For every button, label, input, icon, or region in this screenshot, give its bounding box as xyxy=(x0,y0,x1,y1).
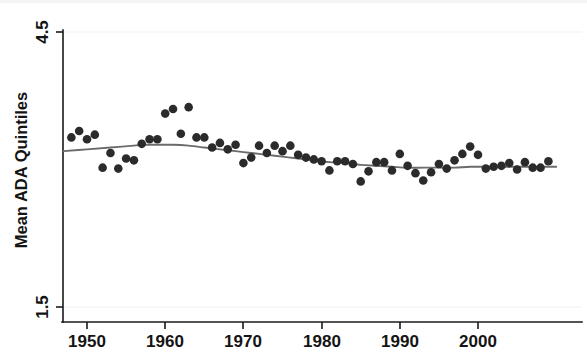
data-point xyxy=(419,176,428,185)
data-point xyxy=(317,157,326,166)
data-point xyxy=(356,177,365,186)
data-point xyxy=(98,163,107,172)
y-axis: 4.5 1.5 Mean ADA Quintiles xyxy=(12,20,63,322)
data-point xyxy=(184,103,193,112)
x-tick-label-1980: 1980 xyxy=(303,332,341,351)
data-point xyxy=(216,139,225,148)
data-point xyxy=(200,133,209,142)
data-point xyxy=(177,129,186,138)
data-point xyxy=(528,163,537,172)
data-point xyxy=(270,141,279,150)
scatter-plot-svg: 4.5 1.5 Mean ADA Quintiles 1950 1960 197… xyxy=(0,0,587,358)
data-point xyxy=(208,143,217,152)
data-point xyxy=(364,167,373,176)
data-point xyxy=(169,105,178,114)
data-point xyxy=(75,127,84,136)
y-tick-label-bottom: 1.5 xyxy=(33,295,52,319)
data-point xyxy=(489,162,498,171)
data-point xyxy=(388,166,397,175)
data-point xyxy=(106,149,115,158)
data-point xyxy=(145,135,154,144)
x-tick-label-2000: 2000 xyxy=(459,332,497,351)
y-tick-label-top: 4.5 xyxy=(33,20,52,44)
data-point xyxy=(497,162,506,171)
data-point xyxy=(83,135,92,144)
data-point xyxy=(286,141,295,150)
data-point xyxy=(380,158,389,167)
x-tick-label-1970: 1970 xyxy=(224,332,262,351)
data-point xyxy=(482,164,491,173)
gridlines xyxy=(63,32,582,307)
data-point xyxy=(372,158,381,167)
data-point xyxy=(349,160,358,169)
x-tick-label-1950: 1950 xyxy=(68,332,106,351)
data-point xyxy=(341,157,350,166)
data-point xyxy=(396,150,405,159)
data-point xyxy=(521,158,530,167)
page-scan-artifact xyxy=(0,0,587,3)
data-point xyxy=(474,151,483,160)
chart-figure: 4.5 1.5 Mean ADA Quintiles 1950 1960 197… xyxy=(0,0,587,358)
data-point xyxy=(91,130,100,139)
data-point xyxy=(442,164,451,173)
data-point xyxy=(255,141,264,150)
data-point xyxy=(278,147,287,156)
data-point xyxy=(450,156,459,165)
data-point xyxy=(67,133,76,142)
x-tick-label-1960: 1960 xyxy=(146,332,184,351)
data-point xyxy=(309,155,318,164)
data-point xyxy=(466,142,475,151)
data-point xyxy=(231,140,240,149)
data-point xyxy=(114,164,123,173)
x-tick-label-1990: 1990 xyxy=(381,332,419,351)
data-point xyxy=(247,153,256,162)
data-point xyxy=(513,165,522,174)
data-point xyxy=(333,157,342,166)
data-point xyxy=(458,150,467,159)
scatter-markers xyxy=(67,103,553,186)
data-point xyxy=(223,145,232,154)
data-point xyxy=(302,153,311,162)
data-point xyxy=(435,160,444,169)
x-axis: 1950 1960 1970 1980 1990 2000 xyxy=(62,322,582,351)
data-point xyxy=(411,169,420,178)
data-point xyxy=(544,157,553,166)
data-point xyxy=(192,133,201,142)
y-axis-title: Mean ADA Quintiles xyxy=(12,92,30,248)
data-point xyxy=(536,163,545,172)
data-point xyxy=(239,159,248,168)
data-point xyxy=(325,166,334,175)
data-point xyxy=(427,168,436,177)
data-point xyxy=(505,159,514,168)
data-point xyxy=(137,140,146,149)
data-point xyxy=(294,151,303,160)
data-point xyxy=(130,156,139,165)
data-point xyxy=(153,135,162,144)
data-point xyxy=(122,154,131,163)
data-point xyxy=(161,109,170,118)
data-point xyxy=(403,162,412,171)
data-point xyxy=(263,149,272,158)
